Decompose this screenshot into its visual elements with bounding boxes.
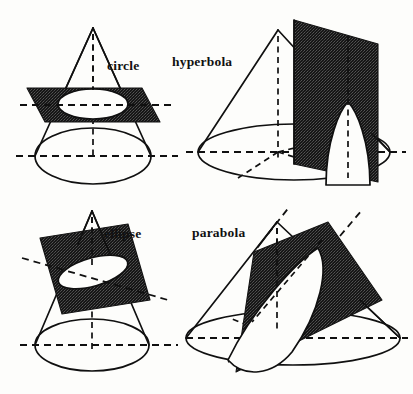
panel-ellipse: ellipse <box>20 211 178 371</box>
panel-hyperbola: hyperbola <box>172 20 406 185</box>
label-ellipse: ellipse <box>104 226 141 241</box>
cone-hidden-generator-left-hyperbola <box>238 152 278 178</box>
conic-sections-figure: circle hyperbola <box>0 0 413 394</box>
conic-sections-svg: circle hyperbola <box>0 0 413 394</box>
panel-parabola: parabola <box>186 206 408 372</box>
label-parabola: parabola <box>192 225 245 240</box>
plane-extension-right-parabola <box>340 210 362 236</box>
cone-left-slant-upper-circle <box>66 28 93 88</box>
label-hyperbola: hyperbola <box>172 54 232 69</box>
cone-left-slant-hyperbola <box>198 30 278 152</box>
conic-section-circle <box>58 89 128 119</box>
label-circle: circle <box>107 58 139 73</box>
panel-circle: circle <box>16 28 178 184</box>
